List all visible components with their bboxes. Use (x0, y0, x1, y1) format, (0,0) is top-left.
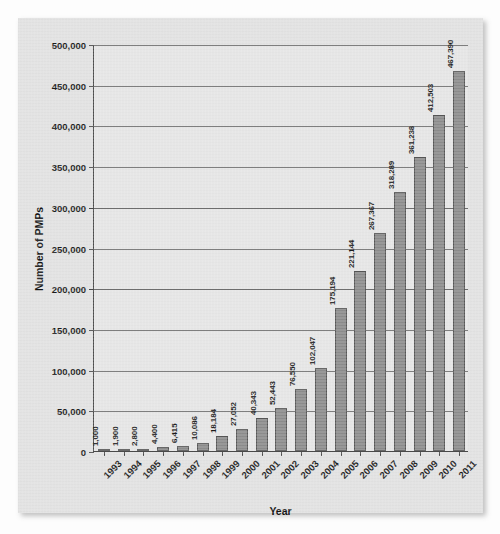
bar[interactable]: 221,144 (354, 271, 366, 451)
x-axis-tick-label: 1997 (180, 458, 203, 481)
x-axis-tick-label: 1999 (219, 458, 242, 481)
bar-group: 76,5502003 (291, 45, 311, 451)
bar[interactable]: 467,390 (453, 71, 465, 451)
bar[interactable]: 102,047 (315, 368, 327, 451)
y-axis-tick-label: 500,000 (52, 40, 86, 51)
bar-group: 1,9001994 (114, 45, 134, 451)
x-axis-tick-label: 2003 (298, 458, 321, 481)
bar[interactable]: 412,503 (433, 115, 445, 451)
bar-group: 102,0472004 (311, 45, 331, 451)
bar[interactable]: 76,550 (295, 389, 307, 451)
bar[interactable]: 361,238 (414, 157, 426, 451)
x-axis-tick-label: 1993 (101, 458, 124, 481)
bar[interactable]: 318,289 (394, 192, 406, 451)
bar-group: 18,1841999 (212, 45, 232, 451)
bar-group: 467,3902011 (449, 45, 469, 451)
x-axis-tick-mark (321, 451, 322, 456)
bar-group: 318,2892008 (390, 45, 410, 451)
x-axis-tick-mark (420, 451, 421, 456)
y-axis-tick-label: 100,000 (52, 365, 86, 376)
x-axis-tick-label: 2009 (417, 458, 440, 481)
y-axis-title-label: Number of PMPs (33, 206, 45, 290)
bar-value-label: 221,144 (347, 240, 356, 268)
bar-value-label: 6,415 (169, 423, 178, 443)
bar-value-label: 361,238 (406, 126, 415, 154)
x-axis-tick-mark (183, 451, 184, 456)
x-axis-tick-label: 2002 (279, 458, 302, 481)
x-axis-tick-label: 2005 (338, 458, 361, 481)
bar-value-label: 18,184 (209, 409, 218, 433)
bar-value-label: 76,550 (288, 362, 297, 386)
y-axis-tick-label: 50,000 (57, 406, 86, 417)
bar-value-label: 4,400 (150, 425, 159, 445)
x-axis-tick-mark (400, 451, 401, 456)
bar-value-label: 467,390 (446, 39, 455, 67)
x-axis-tick-label: 1998 (200, 458, 223, 481)
x-axis-tick-mark (281, 451, 282, 456)
bar-group: 2,8001995 (133, 45, 153, 451)
x-axis-tick-mark (360, 451, 361, 456)
bar[interactable]: 40,343 (256, 418, 268, 451)
x-axis-tick-mark (439, 451, 440, 456)
bar-group: 10,0861998 (193, 45, 213, 451)
x-axis-tick-mark (459, 451, 460, 456)
bar-group: 412,5032010 (430, 45, 450, 451)
x-axis-tick-mark (203, 451, 204, 456)
x-axis-tick-label: 2008 (397, 458, 420, 481)
x-axis-tick-label: 2007 (377, 458, 400, 481)
bar-group: 1,0001993 (94, 45, 114, 451)
bar[interactable]: 267,367 (374, 233, 386, 451)
y-axis-tick-label: 200,000 (52, 284, 86, 295)
bar[interactable]: 18,184 (216, 436, 228, 451)
x-axis-tick-mark (341, 451, 342, 456)
y-axis-tick-label: 400,000 (52, 121, 86, 132)
plot-area: 050,000100,000150,000200,000250,000300,0… (93, 45, 468, 452)
y-axis-title: Number of PMPs (31, 45, 47, 452)
bar-group: 4,4001996 (153, 45, 173, 451)
y-axis-tick-label: 150,000 (52, 324, 86, 335)
bar-value-label: 318,289 (386, 161, 395, 189)
bar[interactable]: 27,052 (236, 429, 248, 451)
x-axis-tick-label: 2006 (358, 458, 381, 481)
x-axis-tick-mark (301, 451, 302, 456)
x-axis-title: Year (93, 505, 468, 517)
bar-value-label: 52,443 (268, 381, 277, 405)
x-axis-tick-label: 2011 (456, 458, 478, 480)
x-axis-tick-mark (222, 451, 223, 456)
bar-value-label: 175,194 (327, 277, 336, 305)
bar-value-label: 40,343 (248, 391, 257, 415)
x-axis-tick-label: 1994 (121, 458, 144, 481)
x-axis-tick-label: 2010 (437, 458, 460, 481)
bars-group: 1,00019931,90019942,80019954,40019966,41… (94, 45, 468, 451)
bar-value-label: 102,047 (307, 337, 316, 365)
bar[interactable]: 52,443 (275, 408, 287, 451)
x-axis-tick-mark (380, 451, 381, 456)
y-axis-tick-mark (89, 452, 94, 453)
x-axis-tick-mark (104, 451, 105, 456)
x-axis-tick-mark (143, 451, 144, 456)
bar-value-label: 27,052 (229, 402, 238, 426)
x-axis-tick-mark (163, 451, 164, 456)
x-axis-tick-mark (262, 451, 263, 456)
x-axis-tick-mark (242, 451, 243, 456)
y-axis-tick-label: 300,000 (52, 202, 86, 213)
bar-value-label: 2,800 (130, 426, 139, 446)
y-axis-tick-label: 350,000 (52, 162, 86, 173)
bar[interactable]: 10,086 (197, 443, 209, 451)
y-axis-tick-label: 0 (81, 447, 86, 458)
bar-group: 6,4151997 (173, 45, 193, 451)
x-axis-tick-label: 2004 (318, 458, 341, 481)
x-axis-tick-label: 1995 (141, 458, 164, 481)
bar[interactable]: 175,194 (335, 308, 347, 451)
page-root: Number of PMPs 050,000100,000150,000200,… (0, 0, 500, 534)
y-axis-tick-label: 250,000 (52, 243, 86, 254)
x-axis-tick-label: 1996 (160, 458, 183, 481)
x-axis-tick-label: 2001 (259, 458, 282, 481)
x-axis-tick-label: 2000 (239, 458, 262, 481)
bar-value-label: 1,000 (90, 426, 99, 446)
bar-group: 267,3672007 (370, 45, 390, 451)
bar-value-label: 412,503 (426, 84, 435, 112)
bar-value-label: 267,367 (367, 202, 376, 230)
chart-card: Number of PMPs 050,000100,000150,000200,… (18, 18, 483, 513)
bar-group: 52,4432002 (272, 45, 292, 451)
